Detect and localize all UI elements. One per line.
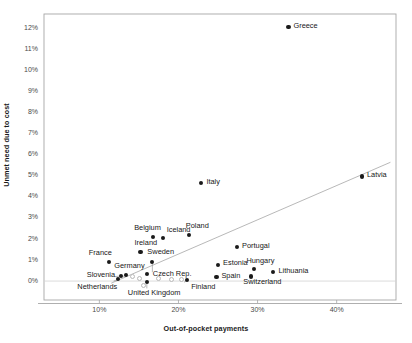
y-tick-label: 1% (12, 256, 38, 263)
y-tick-label: 5% (12, 171, 38, 178)
data-point-label: Spain (221, 271, 240, 280)
data-point-label: Finland (191, 282, 215, 291)
data-point (137, 276, 142, 281)
x-tick-label: 30% (243, 306, 273, 313)
data-point-label: Belgium (134, 223, 161, 232)
y-tick-label: 0% (12, 277, 38, 284)
y-tick-label: 7% (12, 129, 38, 136)
data-point-label: United Kingdom (128, 288, 181, 297)
data-point-spain (214, 275, 218, 279)
data-point-label: Hungary (246, 256, 274, 265)
data-point-greece (286, 25, 290, 29)
data-point-label: Lithuania (278, 266, 308, 275)
x-tick-label: 40% (322, 306, 352, 313)
x-tick-label: 20% (163, 306, 193, 313)
data-point-latvia (360, 174, 364, 178)
data-point-iceland (161, 236, 165, 240)
data-point-estonia (216, 263, 220, 267)
data-point-label: Slovenia (87, 270, 115, 279)
y-tick-label: 2% (12, 235, 38, 242)
data-point-label: Netherlands (77, 282, 117, 291)
data-point-label: Ireland (135, 238, 158, 247)
data-point-label: Estonia (223, 258, 248, 267)
data-point-label: Portugal (242, 241, 270, 250)
y-tick-label: 12% (12, 24, 38, 31)
data-point-label: Sweden (147, 247, 174, 256)
y-tick-label: 10% (12, 66, 38, 73)
data-point-ireland (138, 250, 142, 254)
data-point-label: Switzerland (243, 277, 281, 286)
y-tick-label: 9% (12, 87, 38, 94)
y-tick-label: 4% (12, 192, 38, 199)
data-point-label: Latvia (367, 170, 387, 179)
data-point-label: France (89, 248, 112, 257)
plot-area (0, 0, 412, 343)
y-tick-label: 8% (12, 108, 38, 115)
scatter-chart-figure: Unmet need due to cost Out-of-pocket pay… (0, 0, 412, 343)
data-point-label: Iceland (167, 225, 191, 234)
x-tick-label: 10% (84, 306, 114, 313)
data-point (169, 277, 174, 282)
y-tick-label: 11% (12, 45, 38, 52)
data-point-label: Greece (293, 21, 317, 30)
y-tick-label: 6% (12, 150, 38, 157)
y-tick-label: 3% (12, 213, 38, 220)
data-point-label: Germany (114, 261, 144, 270)
data-point-label: Italy (206, 177, 220, 186)
